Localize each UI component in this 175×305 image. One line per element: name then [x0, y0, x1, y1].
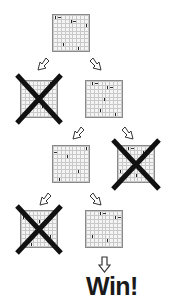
board-cell: [70, 32, 73, 35]
board-cell: [73, 39, 76, 42]
board-cell: [103, 105, 106, 108]
board-cell: [87, 216, 90, 219]
board-cell: [54, 155, 57, 158]
board-cell: [95, 90, 98, 93]
board-cell: [34, 82, 37, 85]
board-cell: [99, 212, 102, 215]
board-cell: [81, 151, 84, 154]
board-cell: [34, 239, 37, 242]
board-cell: [106, 228, 109, 231]
board-cell: [77, 35, 80, 38]
board-cell: [34, 94, 37, 97]
board-cell: [26, 231, 29, 234]
board-cell: [114, 231, 117, 234]
board-cell: [131, 170, 134, 173]
board-cell: [38, 235, 41, 238]
board-cell: [38, 239, 41, 242]
board-cell: [73, 178, 76, 181]
board-cell: [99, 239, 102, 242]
board-cell: [114, 101, 117, 104]
board-cell: [38, 90, 41, 93]
board-cell: [26, 86, 29, 89]
board-cell: [38, 101, 41, 104]
board-cell: [85, 151, 88, 154]
board-cell: [81, 47, 84, 50]
board-cell: [73, 151, 76, 154]
board-cell: [114, 212, 117, 215]
board-cell: [58, 32, 61, 35]
board-cell: [91, 90, 94, 93]
board-cell: [142, 163, 145, 166]
board-cell: [95, 228, 98, 231]
board-cell: [26, 212, 29, 215]
board-cell: [85, 159, 88, 162]
board-cell: [58, 20, 61, 23]
board-cell: [41, 212, 44, 215]
board-cell: [58, 159, 61, 162]
board-cell: [91, 220, 94, 223]
board-cell: [103, 220, 106, 223]
board-cell: [73, 32, 76, 35]
board-cell: [81, 147, 84, 150]
board-cell: [77, 43, 80, 46]
board-cell: [70, 178, 73, 181]
board-cell: [30, 90, 33, 93]
board-cell: [118, 90, 121, 93]
board-cell: [118, 86, 121, 89]
board-cell: [135, 170, 138, 173]
board-cell: [81, 24, 84, 27]
board-cell: [58, 151, 61, 154]
board-cell: [70, 151, 73, 154]
board-cell: [22, 235, 25, 238]
board-cell: [66, 155, 69, 158]
board-cell: [73, 47, 76, 50]
board-cell: [22, 224, 25, 227]
board-cell: [150, 178, 153, 181]
board-cell: [81, 20, 84, 23]
board-cell: [81, 28, 84, 31]
board-cell: [103, 243, 106, 246]
board-cell: [58, 166, 61, 169]
board-cell: [45, 109, 48, 112]
board-cell: [138, 174, 141, 177]
board-cell: [41, 82, 44, 85]
board-cell: [58, 35, 61, 38]
board-cell: [123, 174, 126, 177]
board-cell: [85, 43, 88, 46]
board-cell: [95, 239, 98, 242]
board-cell: [118, 109, 121, 112]
board-cell: [146, 178, 149, 181]
board-cell: [45, 86, 48, 89]
board-cell: [53, 231, 56, 234]
board-cell: [41, 216, 44, 219]
board-cell: [114, 82, 117, 85]
board-cell: [53, 86, 56, 89]
board-cell: [45, 98, 48, 101]
board-cell: [34, 109, 37, 112]
board-cell: [53, 224, 56, 227]
board-cell: [150, 174, 153, 177]
board-cell: [34, 220, 37, 223]
board-cell: [58, 47, 61, 50]
board-cell: [110, 212, 113, 215]
board-cell: [119, 174, 122, 177]
board-cell: [103, 86, 106, 89]
board-cell: [91, 231, 94, 234]
board-cell: [135, 174, 138, 177]
board-cell: [95, 98, 98, 101]
board-cell: [103, 235, 106, 238]
board-cell: [150, 170, 153, 173]
board-cell: [38, 82, 41, 85]
board-cell: [142, 166, 145, 169]
board-cell: [95, 212, 98, 215]
board-cell: [146, 155, 149, 158]
board-cell: [66, 24, 69, 27]
board-cell: [34, 113, 37, 116]
board-cell: [34, 228, 37, 231]
board-cell: [30, 243, 33, 246]
board-cell: [22, 220, 25, 223]
board-cell: [85, 35, 88, 38]
board-cell: [85, 24, 88, 27]
board-cell: [34, 101, 37, 104]
board-cell: [45, 228, 48, 231]
